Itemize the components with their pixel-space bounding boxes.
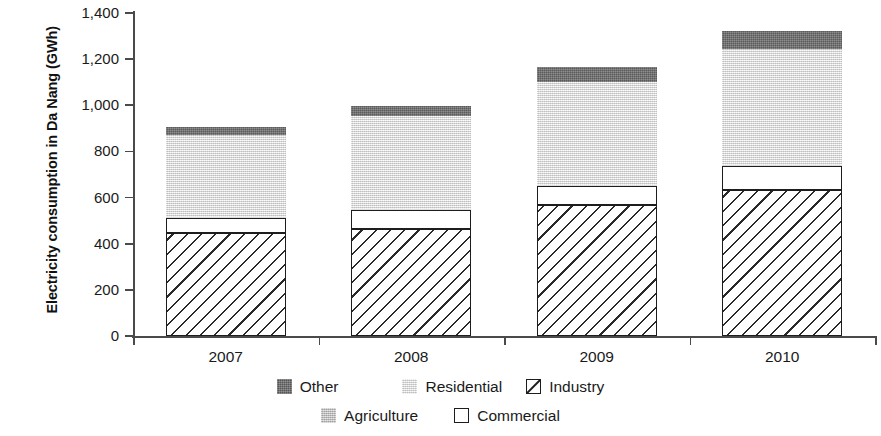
medium-gray-swatch-icon (321, 408, 336, 423)
bar-segment-commercial (351, 210, 471, 228)
plot-area (133, 13, 875, 336)
y-axis-tick-label: 800 (94, 141, 119, 161)
bar-segment-agriculture (351, 209, 471, 210)
bar-segment-commercial (166, 218, 286, 233)
y-axis-tick-mark (125, 12, 133, 14)
bar-group-2008 (351, 13, 471, 336)
y-axis-tick-mark (125, 104, 133, 106)
bar-segment-commercial (722, 166, 842, 189)
legend-item-agriculture[interactable]: Agriculture (321, 407, 418, 425)
y-axis-tick-mark (125, 197, 133, 199)
bar-segment-residential (722, 49, 842, 166)
legend-label: Industry (549, 378, 604, 396)
bar-segment-industry (537, 205, 657, 337)
x-axis-tick-label: 2008 (351, 348, 471, 366)
bar-segment-commercial (537, 186, 657, 204)
bar-group-2009 (537, 13, 657, 336)
y-axis-tick-label: 1,200 (81, 49, 119, 69)
legend-label: Commercial (477, 407, 560, 425)
y-axis-tick-mark (125, 58, 133, 60)
x-axis-tick-label: 2007 (166, 348, 286, 366)
bar-segment-other (166, 127, 286, 135)
y-axis-tick-mark (125, 151, 133, 153)
y-axis-tick-label: 1,000 (81, 95, 119, 115)
bar-segment-other (351, 106, 471, 115)
hatched-swatch-icon (526, 379, 541, 394)
legend-label: Residential (425, 378, 502, 396)
legend-item-other[interactable]: Other (277, 378, 339, 396)
bar-segment-residential (351, 116, 471, 209)
bar-group-2007 (166, 13, 286, 336)
y-axis-tick-label: 1,400 (81, 3, 119, 23)
legend-row-secondary: AgricultureCommercial (0, 401, 881, 430)
y-axis-title: Electricity consumption in Da Nang (GWh) (43, 5, 63, 335)
bar-segment-other (722, 31, 842, 48)
y-axis-tick-label: 400 (94, 234, 119, 254)
x-axis-tick-mark (504, 336, 506, 345)
bar-segment-industry (722, 190, 842, 337)
dark-gray-swatch-icon (277, 379, 292, 394)
bar-group-2010 (722, 13, 842, 336)
x-axis-tick-mark (319, 336, 321, 345)
legend-label: Agriculture (344, 407, 418, 425)
bar-segment-industry (166, 233, 286, 336)
white-outline-swatch-icon (454, 408, 469, 423)
legend-item-industry[interactable]: Industry (526, 378, 604, 396)
bar-segment-industry (351, 229, 471, 336)
y-axis-tick-label: 200 (94, 280, 119, 300)
x-axis-tick-mark (690, 336, 692, 345)
y-axis-tick-label: 0 (111, 326, 119, 346)
bar-segment-other (537, 67, 657, 82)
light-gray-swatch-icon (402, 379, 417, 394)
stacked-bar-chart: Electricity consumption in Da Nang (GWh)… (0, 0, 881, 436)
x-axis-tick-mark (133, 336, 135, 345)
x-axis-tick-label: 2009 (537, 348, 657, 366)
chart-legend: OtherResidentialIndustry AgricultureComm… (0, 372, 881, 430)
bar-segment-agriculture (722, 165, 842, 166)
x-axis-tick-mark (875, 336, 877, 345)
y-axis-tick-mark (125, 289, 133, 291)
bar-segment-residential (166, 135, 286, 217)
y-axis-tick-mark (125, 335, 133, 337)
bar-segment-agriculture (537, 185, 657, 186)
x-axis-tick-label: 2010 (722, 348, 842, 366)
legend-row-primary: OtherResidentialIndustry (0, 372, 881, 401)
legend-label: Other (300, 378, 339, 396)
legend-item-residential[interactable]: Residential (402, 378, 502, 396)
legend-item-commercial[interactable]: Commercial (454, 407, 560, 425)
bar-segment-residential (537, 82, 657, 185)
y-axis-tick-label: 600 (94, 188, 119, 208)
bar-segment-agriculture (166, 217, 286, 218)
y-axis-tick-mark (125, 243, 133, 245)
